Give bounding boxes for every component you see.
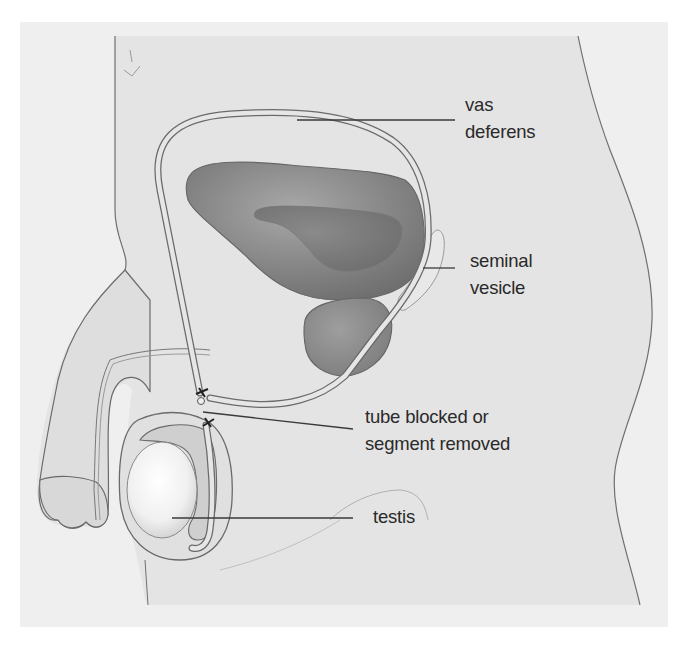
label-line: testis bbox=[373, 503, 415, 530]
label-line: seminal bbox=[470, 247, 532, 274]
testis bbox=[127, 442, 197, 538]
label-seminal-vesicle: seminal vesicle bbox=[470, 247, 532, 301]
anatomy-illustration bbox=[0, 0, 689, 649]
label-tube-blocked: tube blocked or segment removed bbox=[365, 403, 510, 457]
label-vas-deferens: vas deferens bbox=[465, 91, 535, 145]
label-line: tube blocked or bbox=[365, 403, 510, 430]
label-line: deferens bbox=[465, 118, 535, 145]
label-line: segment removed bbox=[365, 430, 510, 457]
label-line: vas bbox=[465, 91, 535, 118]
label-line: vesicle bbox=[470, 274, 532, 301]
label-testis: testis bbox=[373, 503, 415, 530]
cut-end-upper bbox=[198, 398, 205, 405]
